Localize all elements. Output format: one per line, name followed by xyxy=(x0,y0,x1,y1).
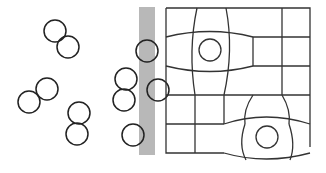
free-cell xyxy=(68,102,90,124)
deformed-cell-boundary xyxy=(245,95,253,124)
deformed-cell-boundary xyxy=(224,117,310,124)
free-cell xyxy=(18,91,40,113)
diagram-canvas xyxy=(0,0,326,173)
deformed-cell-boundary xyxy=(242,124,246,160)
deformed-cell-boundary xyxy=(166,66,253,72)
free-cell xyxy=(66,123,88,145)
deformed-cell-boundary xyxy=(166,32,253,38)
tissue-grid xyxy=(166,8,310,160)
free-cell xyxy=(113,89,135,111)
diagram-svg xyxy=(0,0,326,173)
free-cell xyxy=(44,20,66,42)
nucleus xyxy=(199,39,221,61)
deformed-cell-boundary xyxy=(192,8,197,95)
deformed-cell-boundary xyxy=(224,153,310,159)
deformed-cell-boundary xyxy=(224,8,230,95)
grid-frame xyxy=(166,8,310,153)
deformed-cell-boundary xyxy=(289,124,293,160)
deformed-cell-boundary xyxy=(282,95,289,124)
nucleus xyxy=(256,126,278,148)
free-cell xyxy=(57,36,79,58)
free-cell xyxy=(115,68,137,90)
